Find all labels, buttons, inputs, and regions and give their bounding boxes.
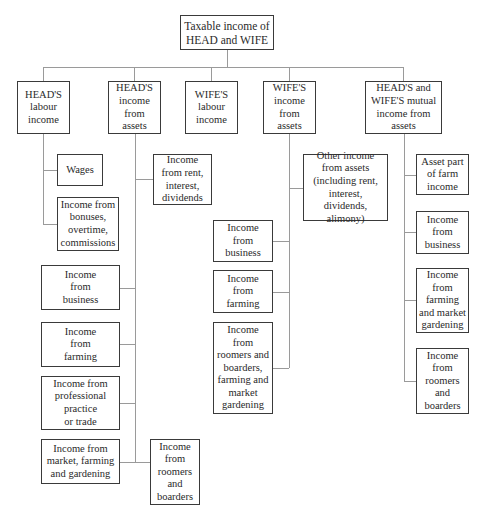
node-mutual-roomers-boarders: Income from roomers and boarders [416,348,469,414]
branch-wages [43,170,57,171]
spine-head-labour [43,134,44,224]
node-mutual-business: Income from business [416,211,469,254]
node-head-rent-interest-dividends: Income from rent, interest, dividends [153,154,212,205]
spine-mutual [404,134,405,381]
branch-wife-business [273,241,289,242]
branch-mutual-farming [404,300,416,301]
node-wages: Wages [57,154,103,186]
spine-head-assets [135,134,136,462]
branch-mutual-roomers [404,381,416,382]
node-head-market-farming-gardening: Income from market, farming and gardenin… [41,439,120,484]
branch-head-professional [120,403,135,404]
branch-wife-other [289,188,303,189]
node-bonuses-overtime-commissions: Income from bonuses, overtime, commissio… [57,197,119,251]
node-head-farming: Income from farming [41,322,120,367]
node-head-income-from-assets: HEAD'S income from assets [108,81,161,134]
branch-bonuses [43,224,57,225]
connector-wife-labour [211,67,212,81]
node-wife-roomers-farming-gardening: Income from roomers and boarders, farmin… [213,322,273,414]
node-wife-business: Income from business [213,220,273,262]
node-head-labour-income: HEAD'S labour income [17,81,70,134]
connector-mutual [403,67,404,81]
branch-wife-farming [273,292,289,293]
branch-head-business [120,288,135,289]
node-wife-other-income: Other income from assets (including rent… [303,154,388,221]
node-head-roomers-boarders: Income from roomers and boarders [150,439,200,505]
connector-wife-assets [289,67,290,81]
branch-head-rent [135,179,153,180]
node-head-professional-practice: Income from professional practice or tra… [41,376,120,430]
node-wife-farming: Income from farming [213,270,273,313]
branch-wife-roomers [273,368,289,369]
branch-head-farming [120,344,135,345]
connector-level2-bus [43,67,404,68]
branch-mutual-asset [404,175,416,176]
spine-wife-assets [289,134,290,368]
node-mutual-asset-farm: Asset part of farm income [416,154,469,195]
connector-head-labour [43,67,44,81]
node-head-business: Income from business [41,265,120,310]
branch-head-market-roomers [120,462,150,463]
connector-root-down [227,50,228,67]
branch-mutual-business [404,232,416,233]
connector-head-assets [134,67,135,81]
node-mutual-income-from-assets: HEAD'S and WIFE'S mutual income from ass… [365,81,442,134]
node-mutual-farming-market: Income from farming and market gardening [416,268,469,333]
root-node: Taxable income of HEAD and WIFE [180,15,274,50]
node-wife-income-from-assets: WIFE'S income from assets [263,81,316,134]
node-wife-labour-income: WIFE'S labour income [185,81,238,134]
